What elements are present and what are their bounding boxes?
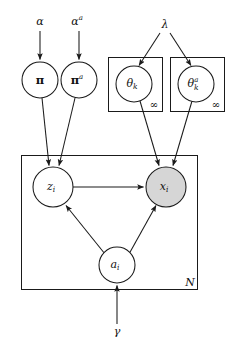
plate-N-label: N [184,276,195,289]
node-pi-label: π [36,73,45,87]
node-a-i: ai [99,247,135,283]
node-theta-k: θk [116,66,152,102]
edge-a-i-to-z-i [66,206,105,255]
hyperparam-alpha-a: αa [71,14,83,28]
node-pi-a: πa [61,62,97,98]
plate-theta-k-label: ∞ [150,99,158,110]
hyperparam-alpha: α [36,15,44,28]
hyperparam-lambda: λ [161,18,169,31]
node-theta-k-a-label: θak [188,76,199,92]
diagram-canvas: ∞ ∞ N [0,0,235,352]
node-theta-k-a: θak [178,66,214,102]
graphical-model-figure: ∞ ∞ N [0,0,235,352]
plate-theta-k-a-label: ∞ [212,99,220,110]
hyperparam-gamma: γ [114,325,121,338]
edge-a-i-to-x-i [129,206,156,255]
edge-lambda-to-theta-k-a [170,33,191,66]
nodes-layer: π πa θk θak [22,62,214,283]
node-pi: π [22,62,58,98]
node-x-i: xi [146,167,186,207]
node-z-i: zi [33,167,73,207]
edge-lambda-to-theta-k [139,33,160,66]
